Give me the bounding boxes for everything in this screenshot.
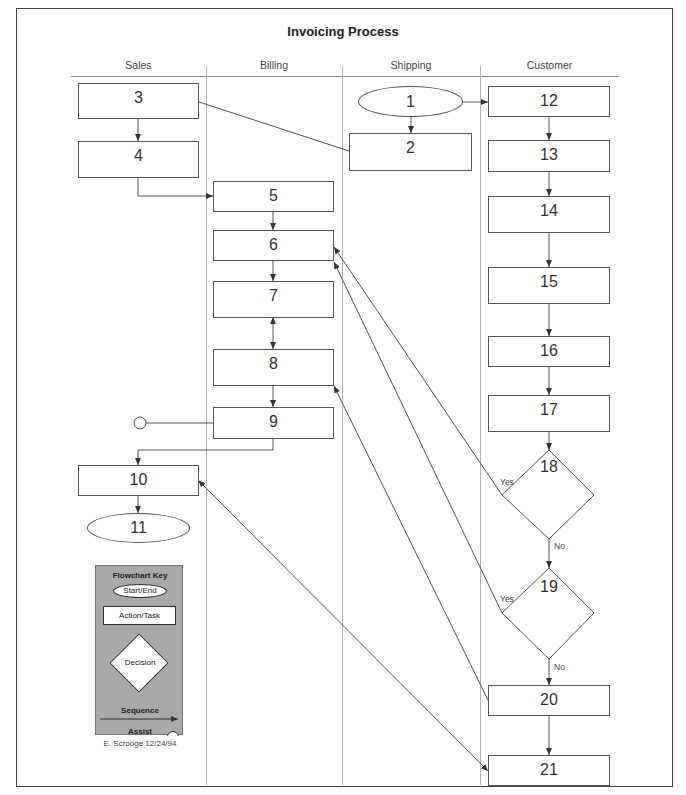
node-16[interactable]: 16	[488, 336, 610, 367]
node-17[interactable]: 17	[488, 395, 610, 432]
node-8-label: 8	[214, 350, 333, 373]
node-15-label: 15	[489, 268, 609, 291]
node-17-label: 17	[489, 396, 609, 419]
assist-circle-icon	[134, 417, 146, 429]
node-19-label[interactable]: 19	[529, 578, 569, 596]
node-14[interactable]: 14	[488, 196, 610, 233]
node-13-label: 13	[489, 141, 609, 164]
node-5[interactable]: 5	[213, 181, 334, 212]
flowchart-key: Flowchart Key Start/End Action/Task Deci…	[95, 565, 183, 735]
node-1-label: 1	[406, 93, 415, 111]
node-9[interactable]: 9	[213, 407, 334, 439]
node-3-label: 3	[79, 84, 198, 107]
node-18-label[interactable]: 18	[529, 458, 569, 476]
node-15[interactable]: 15	[488, 267, 610, 304]
node-11-label: 11	[130, 519, 147, 537]
node-20[interactable]: 20	[488, 685, 610, 716]
node-4-label: 4	[79, 142, 198, 165]
node-14-label: 14	[489, 197, 609, 220]
node-5-label: 5	[214, 182, 333, 205]
node-1[interactable]: 1	[358, 86, 463, 117]
node-8[interactable]: 8	[213, 349, 334, 386]
node-10-label: 10	[79, 466, 198, 489]
node-10[interactable]: 10	[78, 465, 199, 496]
edge-20-to-8	[334, 386, 488, 700]
decision-19-yes-label: Yes	[500, 594, 514, 604]
decision-19-no-label: No	[554, 662, 565, 672]
node-12[interactable]: 12	[488, 86, 610, 117]
node-3[interactable]: 3	[78, 83, 199, 119]
node-9-label: 9	[214, 408, 333, 431]
key-assist-label: Assist	[96, 727, 184, 736]
node-13[interactable]: 13	[488, 140, 610, 172]
edge-4-to-5	[138, 178, 213, 196]
edge-9-to-10	[138, 439, 273, 465]
decision-18-yes-label: Yes	[500, 477, 514, 487]
node-7[interactable]: 7	[213, 281, 334, 318]
edge-10-to-21	[199, 481, 488, 771]
node-7-label: 7	[214, 282, 333, 305]
node-2[interactable]: 2	[349, 133, 472, 171]
decision-18-no-label: No	[554, 541, 565, 551]
node-21-label: 21	[489, 756, 609, 779]
node-6-label: 6	[214, 231, 333, 254]
node-12-label: 12	[489, 87, 609, 110]
node-2-label: 2	[350, 134, 471, 157]
edge-18-to-6	[334, 247, 502, 495]
node-21[interactable]: 21	[488, 755, 610, 786]
node-16-label: 16	[489, 337, 609, 360]
node-20-label: 20	[489, 686, 609, 709]
node-11[interactable]: 11	[87, 513, 190, 543]
node-4[interactable]: 4	[78, 141, 199, 178]
edge-3-to-2	[199, 102, 349, 151]
key-lines	[96, 566, 184, 736]
author-signature: E. Scrooge 12/24/94	[80, 739, 200, 748]
node-6[interactable]: 6	[213, 230, 334, 261]
